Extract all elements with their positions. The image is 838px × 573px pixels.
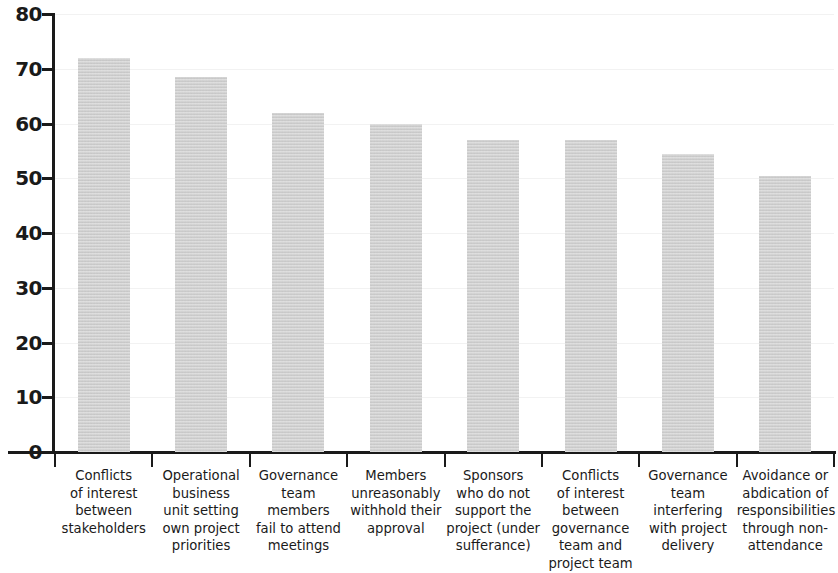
x-axis-label-line: through non- [737, 520, 834, 538]
x-axis-label-line: own project [152, 520, 249, 538]
x-axis-label-line: Conflicts [55, 467, 152, 485]
x-axis-label-line: sufferance) [445, 537, 542, 555]
x-axis-tick [346, 454, 348, 467]
x-axis-label-line: interfering [639, 502, 736, 520]
x-axis-label-line: between [542, 502, 639, 520]
x-axis-label-line: fail to attend [250, 520, 347, 538]
x-axis-label-line: project team [542, 555, 639, 573]
bar [78, 58, 130, 452]
x-axis-label-line: meetings [250, 537, 347, 555]
x-axis-label-line: business [152, 485, 249, 503]
x-axis-label-line: team [639, 485, 736, 503]
x-axis-label-line: Governance [250, 467, 347, 485]
bar [759, 176, 811, 452]
x-axis-label-line: delivery [639, 537, 736, 555]
x-axis-label: Conflictsof interestbetweengovernancetea… [542, 467, 639, 573]
x-axis-tick [833, 454, 835, 467]
x-axis-tick [54, 454, 56, 467]
x-axis-tick [541, 454, 543, 467]
x-axis-label-line: support the [445, 502, 542, 520]
x-axis-label-line: priorities [152, 537, 249, 555]
bar [565, 140, 617, 452]
x-axis-label-line: Avoidance or [737, 467, 834, 485]
x-axis-label-line: of interest [542, 485, 639, 503]
x-axis-label: Sponsorswho do notsupport theproject (un… [445, 467, 542, 555]
bar [272, 113, 324, 452]
x-axis-label-line: stakeholders [55, 520, 152, 538]
bar [175, 77, 227, 452]
x-axis-label-line: between [55, 502, 152, 520]
x-axis-label-line: team and [542, 537, 639, 555]
x-axis-label-line: unit setting [152, 502, 249, 520]
x-axis-label-line: Sponsors [445, 467, 542, 485]
x-axis-label-line: Governance [639, 467, 736, 485]
x-axis-label-line: abdication of [737, 485, 834, 503]
bar [467, 140, 519, 452]
x-axis-label-line: with project [639, 520, 736, 538]
x-axis-tick [638, 454, 640, 467]
x-axis-label-line: project (under [445, 520, 542, 538]
x-axis-label-line: team members [250, 485, 347, 520]
bar [662, 154, 714, 452]
x-axis-label: Governanceteaminterferingwith projectdel… [639, 467, 736, 555]
x-axis-label: Operationalbusinessunit settingown proje… [152, 467, 249, 555]
x-axis-label-line: Operational [152, 467, 249, 485]
x-axis-label: Membersunreasonablywithhold theirapprova… [347, 467, 444, 537]
x-axis-label-line: responsibilities [737, 502, 834, 520]
x-axis-label: Conflictsof interestbetweenstakeholders [55, 467, 152, 537]
x-axis-tick [736, 454, 738, 467]
x-axis-label-line: of interest [55, 485, 152, 503]
x-axis-tick [151, 454, 153, 467]
x-axis-label-line: Members [347, 467, 444, 485]
x-axis-label-line: Conflicts [542, 467, 639, 485]
x-axis-tick [444, 454, 446, 467]
x-axis-label-line: attendance [737, 537, 834, 555]
x-axis-tick [249, 454, 251, 467]
x-axis-label-line: unreasonably [347, 485, 444, 503]
bars-layer [0, 0, 838, 452]
x-axis-label: Governanceteam membersfail to attendmeet… [250, 467, 347, 555]
bar [370, 124, 422, 453]
x-axis-label-line: approval [347, 520, 444, 538]
x-axis-label: Avoidance orabdication ofresponsibilitie… [737, 467, 834, 555]
x-axis-label-line: withhold their [347, 502, 444, 520]
x-axis-label-line: who do not [445, 485, 542, 503]
x-axis-label-line: governance [542, 520, 639, 538]
